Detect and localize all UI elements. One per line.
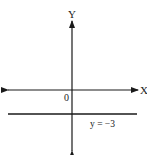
origin-label: 0	[64, 92, 69, 103]
x-axis-label: X	[140, 84, 147, 96]
y-axis-label: Y	[68, 8, 76, 20]
coordinate-diagram: Y X 0 y = −3	[0, 0, 147, 155]
line-equation-label: y = −3	[90, 119, 115, 129]
